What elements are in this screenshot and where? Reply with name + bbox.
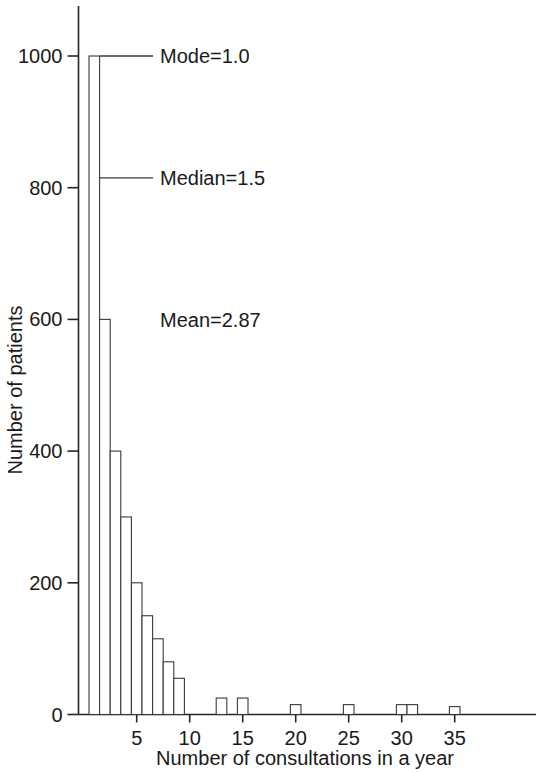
histogram-bar: [396, 705, 407, 715]
x-tick-label: 25: [338, 727, 360, 749]
axis-titles: Number of consultations in a yearNumber …: [4, 306, 454, 769]
chart-canvas: 02004006008001000 5101520253035 Mode=1.0…: [0, 0, 538, 773]
histogram-bar: [142, 616, 153, 715]
histogram-bar: [237, 698, 248, 714]
histogram-bar: [174, 678, 185, 714]
histogram-bar: [89, 56, 100, 715]
histogram-bar: [100, 319, 111, 714]
histogram-bar: [216, 698, 227, 714]
histogram-figure: 02004006008001000 5101520253035 Mode=1.0…: [0, 0, 538, 773]
y-axis-title: Number of patients: [4, 306, 26, 475]
histogram-bar: [290, 705, 301, 715]
mode-annotation-label: Mode=1.0: [160, 45, 250, 67]
y-tick-label: 600: [29, 308, 62, 330]
bars-series: [89, 56, 460, 715]
x-tick-label: 15: [232, 727, 254, 749]
x-tick-label: 5: [131, 727, 142, 749]
histogram-bar: [153, 639, 164, 715]
x-tick-label: 30: [391, 727, 413, 749]
y-tick-label: 400: [29, 440, 62, 462]
mean-annotation-label: Mean=2.87: [160, 309, 261, 331]
x-tick-label: 35: [444, 727, 466, 749]
histogram-bar: [343, 705, 354, 715]
histogram-bar: [121, 517, 132, 715]
median-annotation-label: Median=1.5: [160, 167, 265, 189]
y-tick-label: 1000: [18, 45, 63, 67]
histogram-bar: [449, 707, 460, 715]
histogram-bar: [163, 662, 174, 715]
y-axis: 02004006008001000: [18, 6, 79, 726]
x-tick-label: 10: [179, 727, 201, 749]
x-axis: 5101520253035: [79, 715, 537, 749]
y-tick-label: 0: [51, 704, 62, 726]
annotations: Mode=1.0Median=1.5Mean=2.87: [100, 45, 265, 331]
histogram-bar: [131, 583, 142, 715]
y-tick-label: 800: [29, 177, 62, 199]
histogram-bar: [110, 451, 121, 714]
x-tick-label: 20: [285, 727, 307, 749]
x-axis-title: Number of consultations in a year: [156, 747, 454, 769]
y-tick-label: 200: [29, 572, 62, 594]
histogram-bar: [407, 705, 418, 715]
